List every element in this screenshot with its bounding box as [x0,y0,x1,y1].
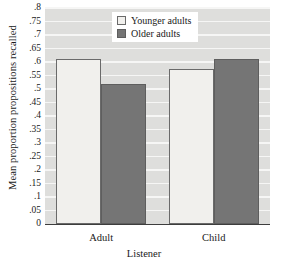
gridline [45,48,270,50]
legend-swatch-icon [117,16,126,25]
y-axis-title: Mean proportion propositions recalled [7,8,18,208]
x-axis-tick-label-child: Child [174,232,254,243]
legend-item: Older adults [117,28,191,39]
legend-swatch-icon [117,29,126,38]
bar-chart: Mean proportion propositions recalled .8… [0,0,288,262]
bar-child-younger [169,69,214,224]
x-axis-tick-label-adult: Adult [61,232,141,243]
legend-item: Younger adults [117,15,191,26]
legend: Younger adultsOlder adults [112,12,198,42]
bar-adult-younger [56,59,101,224]
bar-child-older [214,59,259,224]
legend-label: Younger adults [131,15,191,26]
x-axis-title: Listener [0,248,288,259]
x-axis-line [45,224,270,225]
legend-label: Older adults [131,28,180,39]
bar-adult-older [101,84,146,224]
gridline [45,7,270,9]
y-axis-tick-label: 0 [4,219,41,229]
